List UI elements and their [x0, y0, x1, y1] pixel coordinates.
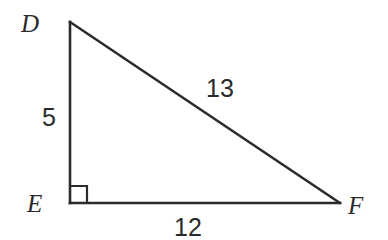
side-length-label-de: 5	[42, 103, 56, 131]
right-angle-marker-icon	[70, 186, 87, 203]
vertex-label-e: E	[26, 190, 42, 217]
side-length-label-df: 13	[206, 74, 234, 102]
side-length-label-ef: 12	[174, 213, 202, 240]
triangle-side-df-hypotenuse	[70, 22, 340, 203]
vertex-label-f: F	[347, 192, 364, 219]
triangle-figure: D E F 5 13 12	[0, 0, 388, 240]
triangle-diagram-canvas: D E F 5 13 12	[0, 0, 388, 240]
vertex-label-d: D	[20, 10, 39, 37]
